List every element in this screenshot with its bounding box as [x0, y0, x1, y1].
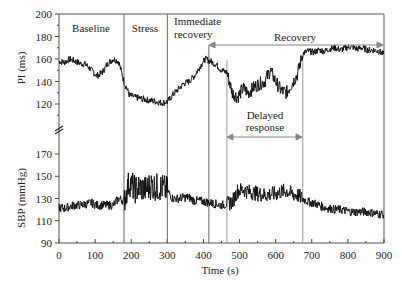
y-axis-sbp-ticks: 90110130150170 [36, 148, 60, 249]
svg-text:200: 200 [123, 249, 140, 261]
label-immediate-2: recovery [174, 28, 213, 40]
x-axis-title: Time (s) [201, 264, 239, 277]
svg-text:120: 120 [36, 98, 53, 110]
svg-text:400: 400 [195, 249, 212, 261]
x-axis-ticks: 0100200300400500600700800900 [56, 239, 393, 261]
svg-text:140: 140 [36, 76, 53, 88]
svg-text:0: 0 [56, 249, 62, 261]
svg-text:100: 100 [87, 249, 104, 261]
svg-text:500: 500 [231, 249, 248, 261]
svg-text:90: 90 [41, 237, 53, 249]
svg-text:110: 110 [36, 215, 53, 227]
pi-sbp-chart: 120140160180200 90110130150170 010020030… [0, 0, 402, 288]
svg-text:130: 130 [36, 193, 53, 205]
svg-text:600: 600 [267, 249, 284, 261]
label-stress: Stress [132, 22, 158, 34]
label-recovery: Recovery [274, 31, 317, 43]
label-delayed-2: response [246, 121, 285, 133]
pi-trace [59, 45, 384, 106]
y-axis-pi-ticks: 120140160180200 [36, 8, 60, 115]
svg-text:300: 300 [159, 249, 176, 261]
label-delayed-1: Delayed [247, 109, 284, 121]
svg-text:150: 150 [36, 170, 53, 182]
svg-text:700: 700 [304, 249, 321, 261]
sbp-trace [59, 173, 384, 219]
svg-text:800: 800 [340, 249, 357, 261]
svg-text:200: 200 [36, 8, 53, 20]
label-immediate-1: Immediate [174, 15, 221, 27]
svg-text:160: 160 [36, 53, 53, 65]
y-axis-title-sbp: SBP (mmHg) [15, 168, 28, 228]
delayed-response-span-arrow [227, 134, 302, 140]
svg-text:180: 180 [36, 31, 53, 43]
svg-text:900: 900 [376, 249, 393, 261]
label-baseline: Baseline [72, 22, 110, 34]
y-axis-title-pi: PI (ms) [15, 51, 28, 84]
svg-text:170: 170 [36, 148, 53, 160]
